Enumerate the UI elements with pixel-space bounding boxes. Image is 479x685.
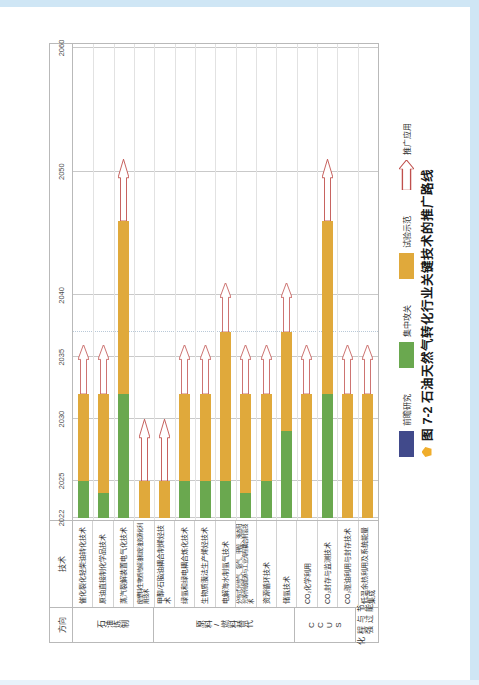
legend-item-1: 集中攻关 (399, 305, 414, 368)
caption-number: 图 7-2 (421, 406, 435, 441)
technology-row-label-7: 电解海水制氢气技术 (216, 521, 236, 607)
bar-segment-amber-0 (78, 394, 89, 481)
technology-row-label-4: 甲醇/石脑油耦合制烯烃技术 (155, 521, 175, 607)
row-separator-11 (297, 44, 298, 520)
legend-label-1: 集中攻关 (401, 305, 412, 337)
technology-roadmap-table: 方向 技术 2022202520302035204020502060 石油炼制原… (49, 43, 379, 643)
bar-segment-green-9 (261, 481, 272, 518)
gridline-2060 (73, 47, 378, 48)
direction-group-3: 节能与过程强化 (356, 608, 378, 642)
row-separator-12 (317, 44, 318, 520)
table-header-row: 方向 技术 2022202520302035204020502060 (50, 44, 73, 642)
promotion-arrow-2 (118, 159, 129, 221)
row-separator-2 (114, 44, 115, 520)
technology-column: 催化裂化轻柴油转化技术原油直接制化学品技术蒸汽裂解装置电气化技术废塑料/生物质热… (73, 520, 378, 607)
year-axis-header: 2022202520302035204020502060 (50, 44, 72, 520)
header-direction: 方向 (50, 607, 72, 642)
promotion-arrow-10 (281, 283, 292, 332)
bar-segment-amber-6 (200, 394, 211, 481)
direction-group-2: CCUS (295, 608, 357, 642)
header-technology: 技术 (50, 520, 72, 607)
year-tick-2022: 2022 (50, 510, 72, 527)
legend-swatch-green (399, 342, 414, 368)
promotion-arrow-4 (159, 419, 170, 481)
technology-row-label-13: CO₂驱油利用与封存技术 (338, 521, 358, 607)
direction-group-0: 石油炼制 (73, 608, 154, 642)
promotion-arrow-5 (179, 345, 190, 394)
figure-caption: 图 7-2 石油天然气转化行业关键技术的推广路线 (417, 169, 436, 457)
row-separator-13 (337, 44, 338, 520)
row-separator-1 (93, 44, 94, 520)
bar-segment-amber-5 (179, 394, 190, 481)
row-separator-3 (134, 44, 135, 520)
technology-row-label-11: CO₂化学利用 (297, 521, 317, 607)
legend-item-2: 试验示范 (399, 216, 414, 279)
bar-segment-green-6 (200, 481, 211, 518)
bar-segment-amber-13 (342, 394, 353, 518)
year-tick-2050: 2050 (50, 163, 72, 180)
row-separator-7 (215, 44, 216, 520)
promotion-arrow-13 (342, 345, 353, 394)
timeline-plot-area (73, 44, 378, 520)
bar-segment-amber-12 (322, 221, 333, 394)
promotion-arrow-12 (322, 159, 333, 221)
technology-row-label-8: 分布式光热气、氨气、甲醇、液态阳光等传统能源与工业流程耦合制氢技术 (236, 521, 256, 607)
legend-label-0: 前瞻研究 (401, 394, 412, 426)
technology-row-label-1: 原油直接制化学品技术 (93, 521, 113, 607)
year-tick-2060: 2060 (50, 40, 72, 57)
promotion-arrow-8 (240, 345, 251, 394)
promotion-arrow-0 (78, 345, 89, 394)
caption-marker-icon (422, 447, 432, 457)
bar-segment-green-2 (118, 394, 129, 518)
page-edge-band-top (0, 0, 479, 7)
promotion-arrow-11 (301, 345, 312, 394)
legend-item-0: 前瞻研究 (399, 394, 414, 457)
bar-segment-amber-7 (220, 333, 231, 481)
technology-row-label-6: 生物质膜法生产烯烃技术 (195, 521, 215, 607)
promotion-arrow-14 (362, 345, 373, 394)
technology-row-label-12: CO₂封存与监测技术 (318, 521, 338, 607)
year-tick-2025: 2025 (50, 473, 72, 490)
legend-item-3: 推广应用 (399, 123, 414, 190)
direction-column: 石油炼制原料/燃料替代CCUS节能与过程强化 (73, 607, 378, 642)
technology-row-label-0: 催化裂化轻柴油转化技术 (73, 521, 93, 607)
row-separator-5 (175, 44, 176, 520)
bar-segment-green-8 (240, 493, 251, 518)
promotion-arrow-1 (98, 345, 109, 394)
figure-rotated-container: 方向 技术 2022202520302035204020502060 石油炼制原… (49, 43, 429, 643)
row-separator-14 (358, 44, 359, 520)
bar-segment-amber-11 (301, 394, 312, 518)
page-canvas: 方向 技术 2022202520302035204020502060 石油炼制原… (0, 0, 479, 685)
technology-row-label-14: 低温余热利用及系统能量集成 (359, 521, 378, 607)
caption-title: 石油天然气转化行业关键技术的推广路线 (421, 169, 435, 403)
year-tick-2030: 2030 (50, 411, 72, 428)
bar-segment-amber-10 (281, 332, 292, 431)
bar-segment-green-10 (281, 431, 292, 518)
page-edge-band-bottom (0, 680, 479, 685)
year-tick-2040: 2040 (50, 287, 72, 304)
bar-segment-amber-2 (118, 221, 129, 394)
promotion-arrow-6 (200, 345, 211, 394)
row-separator-10 (276, 44, 277, 520)
technology-row-label-2: 蒸汽裂解装置电气化技术 (114, 521, 134, 607)
bar-segment-green-1 (98, 493, 109, 518)
promotion-arrow-9 (261, 345, 272, 394)
technology-row-label-10: 储氢技术 (277, 521, 297, 607)
bar-segment-green-12 (322, 394, 333, 518)
caption-text: 图 7-2 石油天然气转化行业关键技术的推广路线 (417, 169, 436, 441)
year-tick-2035: 2035 (50, 349, 72, 366)
promotion-arrow-3 (139, 419, 150, 481)
bar-segment-green-0 (78, 481, 89, 518)
bar-segment-amber-9 (261, 394, 272, 481)
bar-segment-green-5 (179, 481, 190, 518)
row-separator-4 (154, 44, 155, 520)
direction-group-1: 原料/燃料替代 (154, 608, 294, 642)
plot-inner (73, 44, 378, 520)
bar-segment-green-7 (220, 481, 231, 518)
technology-row-label-5: 绿氢和绿电耦合炼化技术 (175, 521, 195, 607)
table-body-row: 石油炼制原料/燃料替代CCUS节能与过程强化 催化裂化轻柴油转化技术原油直接制化… (73, 44, 378, 642)
technology-row-label-9: 资源循环技术 (257, 521, 277, 607)
page-edge-band-right (470, 0, 479, 685)
bar-segment-amber-3 (139, 481, 150, 518)
legend-arrow-icon (399, 160, 414, 190)
